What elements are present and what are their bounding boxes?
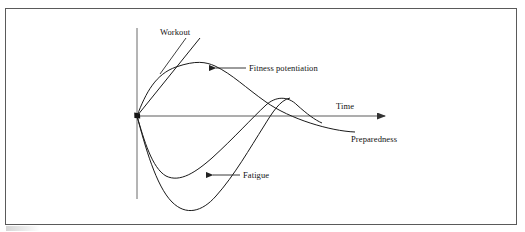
label-workout: Workout: [160, 27, 190, 37]
label-fitness-potentiation: Fitness potentiation: [249, 63, 318, 73]
label-fatigue: Fatigue: [243, 170, 269, 180]
diagram-svg: [0, 0, 525, 232]
curve-workout: [137, 38, 200, 116]
page-edge-artifact: [6, 226, 40, 231]
label-preparedness: Preparedness: [351, 134, 397, 144]
figure-canvas: Workout Fitness potentiation Time Prepar…: [0, 0, 525, 232]
label-time-axis: Time: [336, 101, 354, 111]
curve-fitness-potentiation: [137, 62, 355, 132]
curve-preparedness: [137, 98, 322, 178]
curve-fatigue: [137, 98, 290, 211]
